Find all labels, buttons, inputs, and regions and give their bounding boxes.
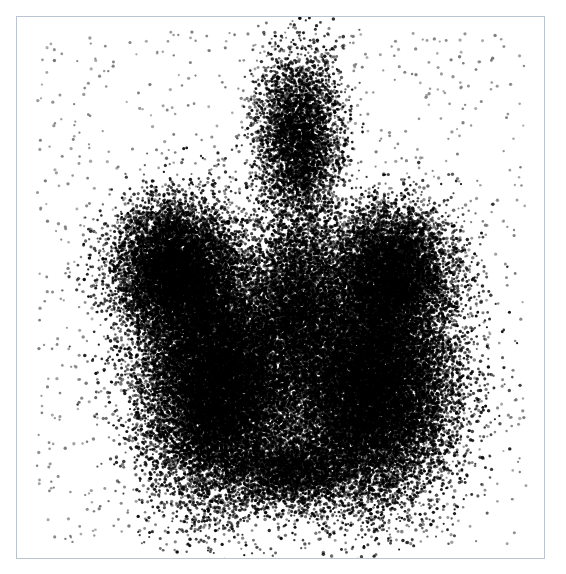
page [0,0,566,574]
scan-image-frame [16,16,545,559]
thyroid-scintigram-image [17,17,545,559]
